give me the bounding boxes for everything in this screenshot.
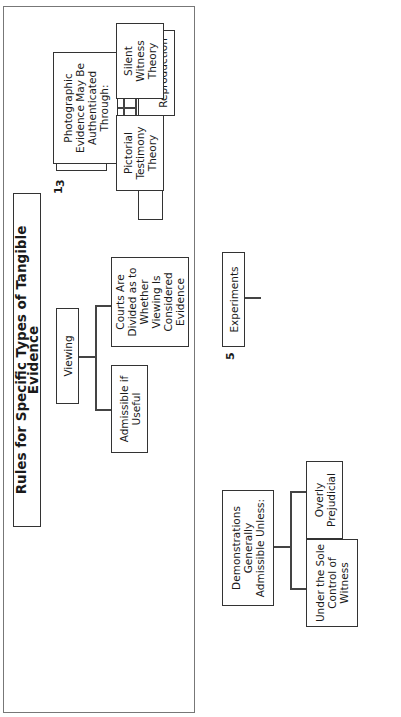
diagram-title: Rules for Specific Types of Tangible Evi… [13, 193, 41, 527]
pictorial-testimony-box: Pictorial Testimony Theory [116, 115, 164, 191]
section-number-1: 1 [52, 186, 65, 194]
connector [95, 410, 111, 412]
experiments-box: Experiments [222, 252, 245, 347]
photographic-evidence-box: Photographic Evidence May Be Authenticat… [53, 52, 118, 164]
connector [245, 298, 261, 300]
connector [290, 492, 306, 494]
silent-witness-box: Silent Witness Theory [116, 23, 164, 99]
demonstrations-box: Demonstrations Generally Admissible Unle… [222, 490, 274, 606]
connector [118, 108, 136, 110]
section-number-3-label: 3 [54, 179, 67, 187]
viewing-box: Viewing [56, 308, 79, 404]
admissible-if-useful-box: Admissible if Useful [111, 365, 148, 453]
connector [95, 306, 97, 411]
connector [290, 589, 306, 591]
sole-control-box: Under the Sole Control of Witness [306, 539, 358, 627]
connector [95, 306, 111, 308]
section-number-5-label: 5 [224, 352, 237, 360]
connector [79, 357, 95, 359]
diagram-canvas: Rules for Specific Types of Tangible Evi… [0, 0, 401, 717]
courts-divided-box: Courts Are Divided as to Whether Viewing… [111, 257, 189, 347]
overly-prejudicial-box: Overly Prejudicial [306, 461, 343, 539]
connector [290, 492, 292, 590]
connector [274, 547, 290, 549]
